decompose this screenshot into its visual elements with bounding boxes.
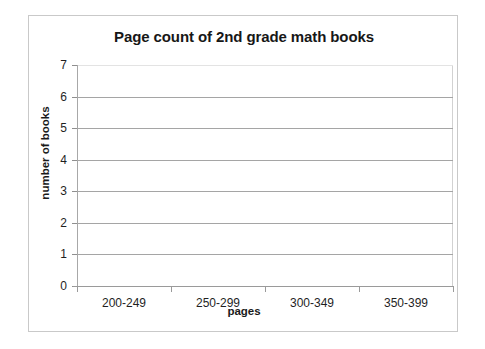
plot-area: [77, 65, 453, 286]
y-axis-tick-label: 5: [29, 122, 67, 134]
gridline: [77, 65, 453, 66]
gridline: [77, 254, 453, 255]
x-axis-tick: [359, 286, 360, 292]
gridline: [77, 223, 453, 224]
y-axis-tick-label: 2: [29, 217, 67, 229]
x-axis-line: [73, 286, 453, 287]
chart-frame: Page count of 2nd grade math books numbe…: [28, 15, 458, 332]
gridline: [77, 97, 453, 98]
y-axis-tick-label: 3: [29, 185, 67, 197]
x-axis-tick: [265, 286, 266, 292]
y-axis-tick-label: 1: [29, 248, 67, 260]
gridline: [77, 128, 453, 129]
y-axis-tick-label: 0: [29, 280, 67, 292]
y-axis-tick-label: 7: [29, 59, 67, 71]
y-axis-tick-label: 6: [29, 91, 67, 103]
y-axis-line: [77, 65, 78, 287]
chart-title: Page count of 2nd grade math books: [29, 28, 459, 45]
gridline: [77, 191, 453, 192]
x-axis-tick: [453, 286, 454, 292]
gridline: [77, 160, 453, 161]
x-axis-tick: [171, 286, 172, 292]
y-axis-tick-label: 4: [29, 154, 67, 166]
x-axis-title: pages: [29, 305, 459, 317]
x-axis-tick: [77, 286, 78, 292]
